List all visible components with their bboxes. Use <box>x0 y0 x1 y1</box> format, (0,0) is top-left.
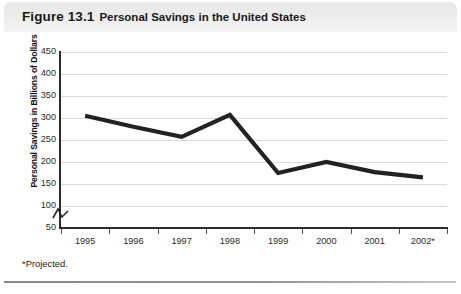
data-series-line <box>0 34 461 252</box>
chart-plot-area: Personal Savings in Billions of Dollars … <box>0 34 461 252</box>
x-axis-tick <box>254 229 255 234</box>
x-axis-tick <box>61 229 62 234</box>
figure-title-text: Personal Savings in the United States <box>99 11 305 23</box>
x-axis-tick <box>399 229 400 234</box>
figure-footnote: *Projected. <box>22 258 68 269</box>
x-axis-tick <box>351 229 352 234</box>
figure-bottom-rule <box>4 281 456 283</box>
personal-savings-line <box>85 115 423 177</box>
x-axis-tick-label: 2002* <box>395 236 451 246</box>
figure-title: Figure 13.1Personal Savings in the Unite… <box>22 9 306 24</box>
x-axis-tick <box>302 229 303 234</box>
x-axis-tick <box>447 229 448 234</box>
figure-card: Figure 13.1Personal Savings in the Unite… <box>0 0 461 294</box>
x-axis-tick <box>109 229 110 234</box>
x-axis-tick <box>158 229 159 234</box>
x-axis-tick <box>206 229 207 234</box>
